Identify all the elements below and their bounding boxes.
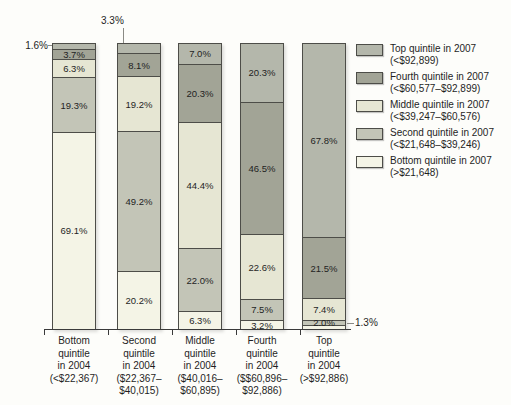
legend-item: Bottom quintile in 2007(>$21,648) [356, 155, 508, 179]
x-axis-label-line: in 2004 [227, 360, 297, 373]
legend-swatch [356, 72, 383, 84]
bar-segment: 6.3% [179, 311, 221, 329]
bar-segment: 20.3% [241, 44, 283, 102]
bar-segment: 20.2% [118, 271, 160, 329]
segment-value-label: 7.4% [313, 305, 335, 314]
bar-segment: 21.5% [303, 237, 345, 298]
legend-item: Top quintile in 2007(<$92,899) [356, 43, 508, 67]
segment-value-label: 22.0% [187, 276, 214, 285]
bar-segment: 19.2% [118, 76, 160, 131]
x-axis-label-line: ($40,016– [165, 373, 235, 386]
segment-value-label: 19.3% [61, 101, 88, 110]
legend-series-range: (<$92,899) [390, 55, 476, 67]
x-axis-label-line: ($$60,896– [227, 373, 297, 386]
stacked-bar: 20.3%46.5%22.6%7.5%3.2% [240, 43, 284, 330]
x-axis-label-line: quintile [39, 348, 109, 361]
x-axis-label-line: in 2004 [104, 360, 174, 373]
segment-value-label: 67.8% [311, 136, 338, 145]
x-axis-label-line: Bottom [39, 335, 109, 348]
segment-value-label: 20.2% [126, 296, 153, 305]
callout-label: 1.3% [355, 317, 378, 328]
x-axis-label-line: quintile [289, 348, 359, 361]
segment-value-label: 8.1% [128, 61, 150, 70]
legend-series-name: Middle quintile in 2007 [390, 99, 490, 111]
segment-value-label: 2.0% [313, 318, 335, 327]
legend-swatch [356, 128, 383, 140]
bar-segment: 44.4% [179, 122, 221, 249]
legend-series-name: Fourth quintile in 2007 [390, 71, 489, 83]
x-axis-label-line: (<$22,367) [39, 373, 109, 386]
legend-series-name: Bottom quintile in 2007 [390, 155, 492, 167]
legend-series-name: Top quintile in 2007 [390, 43, 476, 55]
segment-value-label: 69.1% [61, 226, 88, 235]
leader-line [347, 323, 354, 324]
bar-segment: 3.7% [53, 49, 95, 60]
x-axis-label-line: $92,886) [227, 385, 297, 398]
segment-value-label: 19.2% [126, 100, 153, 109]
bar-segment: 7.4% [303, 298, 345, 319]
segment-value-label: 46.5% [249, 164, 276, 173]
x-axis-line [44, 329, 351, 330]
legend-text: Middle quintile in 2007(<$39,247–$60,576… [390, 99, 490, 123]
bar-segment: 49.2% [118, 131, 160, 271]
legend-item: Fourth quintile in 2007(<$60,577–$92,899… [356, 71, 508, 95]
segment-value-label: 20.3% [249, 68, 276, 77]
legend-series-range: (<$39,247–$60,576) [390, 111, 490, 123]
x-axis-tick [108, 330, 109, 335]
legend-item: Second quintile in 2007(<$21,648–$39,246… [356, 127, 508, 151]
bar-segment: 6.3% [53, 59, 95, 77]
legend-text: Bottom quintile in 2007(>$21,648) [390, 155, 492, 179]
bar-segment: 69.1% [53, 132, 95, 329]
segment-value-label: 3.7% [63, 50, 85, 59]
segment-value-label: 6.3% [189, 316, 211, 325]
x-axis-label-line: in 2004 [289, 360, 359, 373]
segment-value-label: 44.4% [187, 181, 214, 190]
leader-line [123, 28, 124, 43]
x-axis-label-line: ($22,367– [104, 373, 174, 386]
segment-value-label: 21.5% [311, 264, 338, 273]
x-axis-tick [236, 330, 237, 335]
legend-text: Second quintile in 2007(<$21,648–$39,246… [390, 127, 494, 151]
bar-segment: 20.3% [179, 64, 221, 122]
legend: Top quintile in 2007(<$92,899)Fourth qui… [356, 43, 508, 183]
x-axis-category-label: Secondquintilein 2004($22,367–$40,015) [104, 335, 174, 398]
stacked-bar: 67.8%21.5%7.4%2.0% [302, 43, 346, 330]
x-axis-category-label: Fourthquintilein 2004($$60,896–$92,886) [227, 335, 297, 398]
stacked-bar: 7.0%20.3%44.4%22.0%6.3% [178, 43, 222, 330]
legend-swatch [356, 44, 383, 56]
income-quintile-mobility-chart: 3.7%6.3%19.3%69.1%Bottomquintilein 2004(… [0, 0, 511, 405]
x-axis-label-line: quintile [227, 348, 297, 361]
x-axis-category-label: Middlequintilein 2004($40,016–$60,895) [165, 335, 235, 398]
segment-value-label: 20.3% [187, 89, 214, 98]
x-axis-label-line: in 2004 [165, 360, 235, 373]
x-axis-label-line: Top [289, 335, 359, 348]
legend-swatch [356, 156, 383, 168]
x-axis-tick [172, 330, 173, 335]
x-axis-label-line: $60,895) [165, 385, 235, 398]
x-axis-label-line: quintile [165, 348, 235, 361]
bar-segment: 3.2% [241, 320, 283, 329]
callout-label: 1.6% [4, 40, 48, 51]
x-axis-label-line: $40,015) [104, 385, 174, 398]
bar-segment: 46.5% [241, 102, 283, 235]
bar-segment: 22.0% [179, 248, 221, 311]
bar-segment: 19.3% [53, 77, 95, 132]
segment-value-label: 6.3% [63, 64, 85, 73]
segment-value-label: 49.2% [126, 197, 153, 206]
x-axis-label-line: (>$92,886) [289, 373, 359, 386]
stacked-bar: 3.7%6.3%19.3%69.1% [52, 43, 96, 330]
segment-value-label: 7.5% [251, 305, 273, 314]
legend-series-range: (>$21,648) [390, 167, 492, 179]
legend-item: Middle quintile in 2007(<$39,247–$60,576… [356, 99, 508, 123]
legend-text: Fourth quintile in 2007(<$60,577–$92,899… [390, 71, 489, 95]
bar-segment: 7.0% [179, 44, 221, 64]
x-axis-category-label: Topquintilein 2004(>$92,886) [289, 335, 359, 385]
x-axis-label-line: quintile [104, 348, 174, 361]
legend-series-range: (<$21,648–$39,246) [390, 139, 494, 151]
x-axis-tick [44, 330, 45, 335]
segment-value-label: 22.6% [249, 263, 276, 272]
segment-value-label: 7.0% [189, 49, 211, 58]
bar-segment [118, 44, 160, 53]
callout-label: 3.3% [101, 15, 124, 26]
legend-series-name: Second quintile in 2007 [390, 127, 494, 139]
